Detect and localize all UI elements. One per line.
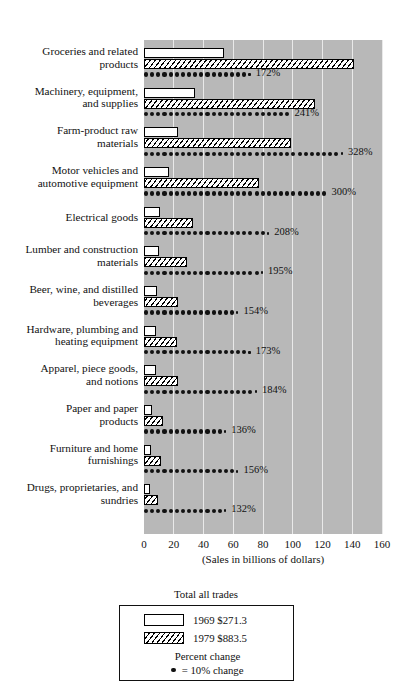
dot-icon <box>224 72 228 76</box>
dot-icon <box>236 112 240 116</box>
bar-1969 <box>144 246 159 256</box>
legend-label-1979: 1979 $883.5 <box>193 632 247 644</box>
dot-icon <box>230 152 234 156</box>
percent-change-label: 208% <box>274 226 299 237</box>
percent-change-dots <box>144 388 257 395</box>
dot-icon <box>169 191 173 195</box>
dot-icon <box>193 429 197 433</box>
dot-icon <box>248 112 252 116</box>
dot-icon <box>144 469 148 473</box>
dot-icon <box>187 72 191 76</box>
x-tick-80: 80 <box>258 538 269 550</box>
dot-icon <box>181 310 185 314</box>
category-label: Paper and paperproducts <box>0 402 138 427</box>
x-tick-20: 20 <box>168 538 179 550</box>
dot-icon <box>236 350 240 354</box>
dot-icon <box>212 231 216 235</box>
legend-row-1969: 1969 $271.3 <box>120 614 295 626</box>
dot-icon <box>230 191 234 195</box>
dot-icon <box>304 191 308 195</box>
gridline-160 <box>382 40 383 534</box>
dot-icon <box>267 191 271 195</box>
dot-icon <box>162 429 166 433</box>
dot-icon <box>187 112 191 116</box>
dot-icon <box>230 350 234 354</box>
category-label-line1: Farm-product raw <box>0 124 138 137</box>
dot-icon <box>162 509 166 513</box>
dot-icon <box>150 390 154 394</box>
category-label-line2: sundries <box>0 494 138 507</box>
dot-icon <box>310 152 314 156</box>
category-label: Drugs, proprietaries, andsundries <box>0 481 138 506</box>
dot-icon <box>156 429 160 433</box>
dot-icon-partial <box>341 152 343 155</box>
category-label-line2: products <box>0 58 138 71</box>
bar-1969 <box>144 48 224 58</box>
percent-change-dots <box>144 190 326 197</box>
dot-icon <box>144 112 148 116</box>
category-label: Electrical goods <box>0 211 138 224</box>
dot-icon <box>285 191 289 195</box>
x-axis-title: (Sales in billions of dollars) <box>144 553 382 565</box>
dot-icon <box>328 152 332 156</box>
dot-icon <box>162 469 166 473</box>
bar-1969 <box>144 326 156 336</box>
dot-icon-partial <box>248 351 250 354</box>
bar-1979 <box>144 218 193 228</box>
dot-icon <box>218 350 222 354</box>
dot-icon <box>150 191 154 195</box>
dot-icon <box>205 271 209 275</box>
dot-icon <box>175 509 179 513</box>
dot-icon <box>218 231 222 235</box>
dot-icon <box>169 429 173 433</box>
category-label: Farm-product rawmaterials <box>0 124 138 149</box>
bar-1969 <box>144 88 195 98</box>
dot-icon <box>162 152 166 156</box>
dot-icon <box>156 271 160 275</box>
dot-icon <box>298 191 302 195</box>
x-tick-0: 0 <box>141 538 147 550</box>
dot-icon <box>224 390 228 394</box>
dot-icon <box>242 152 246 156</box>
dot-icon <box>205 509 209 513</box>
gridline-120 <box>322 40 323 534</box>
dot-icon <box>144 350 148 354</box>
percent-change-dots <box>144 428 226 435</box>
dot-icon <box>218 390 222 394</box>
percent-change-label: 154% <box>243 305 268 316</box>
bar-1969 <box>144 167 169 177</box>
dot-icon <box>156 231 160 235</box>
dot-icon <box>156 72 160 76</box>
legend-dot-label: = 10% change <box>182 664 244 676</box>
dot-icon <box>230 469 234 473</box>
dot-icon <box>181 231 185 235</box>
dot-icon <box>199 152 203 156</box>
dot-icon <box>169 152 173 156</box>
category-label-line1: Apparel, piece goods, <box>0 362 138 375</box>
dot-icon <box>199 191 203 195</box>
dot-icon <box>224 310 228 314</box>
bar-1979 <box>144 495 158 505</box>
bar-1979 <box>144 178 259 188</box>
dot-icon <box>212 112 216 116</box>
category-label-line1: Furniture and home <box>0 442 138 455</box>
legend-row-1979: 1979 $883.5 <box>120 632 295 644</box>
dot-icon <box>255 152 259 156</box>
dot-icon <box>242 191 246 195</box>
category-label: Hardware, plumbing andheating equipment <box>0 323 138 348</box>
dot-icon <box>150 509 154 513</box>
percent-change-dots <box>144 269 263 276</box>
legend-swatch-1979 <box>144 632 184 644</box>
percent-change-dots <box>144 111 289 118</box>
dot-icon <box>193 310 197 314</box>
dot-icon <box>212 350 216 354</box>
dot-icon <box>261 231 265 235</box>
dot-icon <box>261 152 265 156</box>
percent-change-label: 195% <box>268 265 293 276</box>
category-label: Apparel, piece goods,and notions <box>0 362 138 387</box>
dot-icon <box>205 72 209 76</box>
category-label: Beer, wine, and distilledbeverages <box>0 283 138 308</box>
legend-dot-row: = 10% change <box>120 664 295 676</box>
x-tick-120: 120 <box>314 538 331 550</box>
dot-icon <box>150 429 154 433</box>
